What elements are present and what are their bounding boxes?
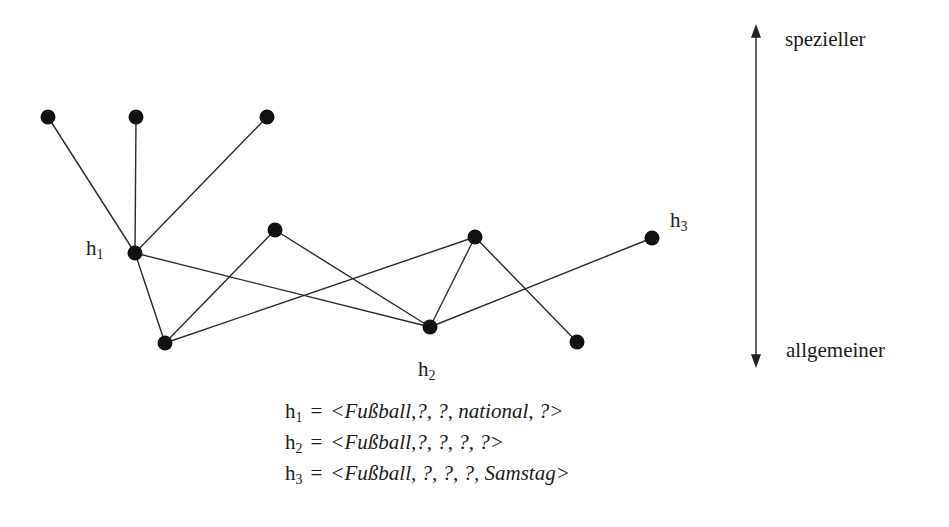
node-h1	[128, 246, 143, 261]
arrow-down-icon	[752, 355, 760, 366]
edge-h1-n8	[135, 253, 165, 343]
formula-h3: h3=<Fußball, ?, ?, ?, Samstag>	[285, 461, 570, 492]
edge-n2-h1	[135, 117, 136, 253]
axis-label-specific: spezieller	[785, 27, 865, 52]
generality-axis	[752, 26, 760, 366]
node-h2	[423, 320, 438, 335]
node-n6	[468, 230, 483, 245]
edge-n1-h1	[48, 117, 135, 253]
edge-h1-h2	[135, 253, 430, 327]
edge-n8-n5	[165, 230, 275, 343]
edge-n5-h2	[275, 230, 430, 327]
node-label-h3: h3	[670, 208, 688, 235]
node-n3	[260, 110, 275, 125]
arrow-up-icon	[752, 26, 760, 37]
node-label-h1: h1	[86, 236, 104, 263]
node-n10	[570, 335, 585, 350]
graph-edges	[48, 117, 652, 343]
hypothesis-definitions: h1=<Fußball,?, ?, national, ?> h2=<Fußba…	[285, 399, 570, 492]
node-label-h2: h2	[418, 357, 436, 384]
formula-h1: h1=<Fußball,?, ?, national, ?>	[285, 399, 570, 430]
node-n5	[268, 223, 283, 238]
node-n2	[129, 110, 144, 125]
node-n1	[41, 110, 56, 125]
graph-nodes	[41, 110, 660, 351]
node-n8	[158, 336, 173, 351]
edge-h2-h3	[430, 238, 652, 327]
axis-label-general: allgemeiner	[786, 338, 885, 363]
node-h3	[645, 231, 660, 246]
formula-h2: h2=<Fußball,?, ?, ?, ?>	[285, 430, 570, 461]
edge-n6-n10	[475, 237, 577, 342]
edge-n3-h1	[135, 117, 267, 253]
